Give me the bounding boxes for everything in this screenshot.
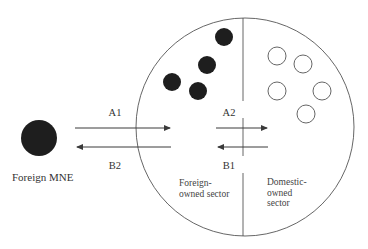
flow-label-a1: A1 <box>109 107 122 118</box>
flow-label-a2: A2 <box>223 107 236 118</box>
foreign-firm <box>215 28 233 46</box>
foreign-firm <box>198 56 216 74</box>
foreign-owned-sector-label: Foreign- owned sector <box>179 178 229 199</box>
foreign-owned-firms <box>163 28 233 100</box>
domestic-firm <box>294 55 312 73</box>
domestic-owned-sector-label: Domestic- owned sector <box>267 177 307 209</box>
domestic-firm <box>297 105 315 123</box>
host-economy-circle <box>136 18 354 236</box>
foreign-firm <box>189 82 207 100</box>
fdi-spillover-diagram <box>0 0 368 249</box>
domestic-firm <box>268 82 286 100</box>
foreign-mne-label: Foreign MNE <box>12 171 73 183</box>
foreign-mne-circle <box>21 120 57 156</box>
domestic-owned-firms <box>268 47 331 123</box>
domestic-firm <box>268 47 286 65</box>
flow-label-b2: B2 <box>109 160 121 171</box>
domestic-firm <box>313 82 331 100</box>
foreign-firm <box>163 73 181 91</box>
flow-label-b1: B1 <box>223 160 235 171</box>
